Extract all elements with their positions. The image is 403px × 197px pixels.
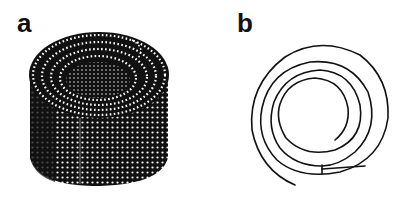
rolled-sheet-illustration <box>0 0 200 197</box>
panel-a: a <box>0 0 200 197</box>
panel-b: b <box>200 0 403 197</box>
spiral-cross-section <box>200 0 403 197</box>
